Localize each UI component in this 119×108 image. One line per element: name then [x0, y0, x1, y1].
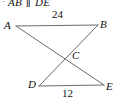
segment-ae [16, 26, 104, 85]
vertex-label-a: A [4, 20, 11, 31]
vertex-label-b: B [100, 19, 107, 30]
measure-label-de: 12 [62, 88, 73, 99]
geometry-figure: · AB ∥ DE A B C D E 24 12 [0, 0, 119, 108]
measure-label-ab: 24 [52, 9, 63, 20]
vertex-label-c: C [72, 50, 79, 61]
segment-ab [16, 25, 98, 26]
segment-de [39, 85, 104, 86]
segment-bd [39, 25, 98, 86]
vertex-label-e: E [106, 81, 113, 92]
vertex-label-d: D [28, 79, 36, 90]
